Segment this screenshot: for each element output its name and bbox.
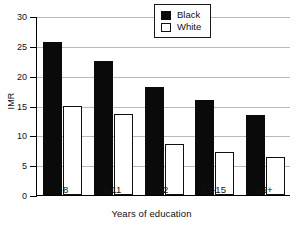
legend-swatch-white-icon	[161, 23, 171, 32]
bar-black-13-15	[195, 100, 214, 195]
legend-swatch-black-icon	[161, 11, 171, 20]
y-tick-mark	[30, 107, 37, 108]
y-tick-label: 15	[17, 102, 27, 112]
bar-white-0-8	[63, 106, 82, 196]
chart-legend: Black White	[154, 4, 211, 38]
y-tick-mark	[30, 196, 37, 197]
x-tick-label: 9-11	[103, 184, 121, 195]
x-tick-label: 0-8	[55, 184, 69, 195]
y-tick-mark	[30, 47, 37, 48]
y-tick-label: 25	[17, 42, 27, 52]
y-tick-mark	[30, 77, 37, 78]
y-tick-mark	[30, 166, 37, 167]
bar-series-container	[37, 17, 290, 195]
plot-area: 051015202530	[36, 17, 290, 196]
x-axis-title: Years of education	[0, 208, 303, 219]
bar-black-9-11	[94, 61, 113, 195]
bar-white-9-11	[114, 114, 133, 195]
bar-black-0-8	[43, 42, 62, 195]
y-tick-mark	[30, 136, 37, 137]
y-axis-title: IMR	[6, 81, 16, 121]
x-tick-label: 12	[158, 184, 169, 195]
legend-item: White	[161, 21, 201, 33]
y-tick-label: 20	[17, 72, 27, 82]
y-tick-label: 30	[17, 12, 27, 22]
bar-black-12	[145, 87, 164, 195]
y-tick-label: 0	[22, 191, 27, 201]
y-tick-label: 5	[22, 161, 27, 171]
imr-by-education-bar-chart: IMR 051015202530 0-89-111213-1516+ Black…	[0, 0, 303, 228]
legend-label-white: White	[177, 22, 201, 32]
legend-item: Black	[161, 9, 201, 21]
x-tick-label: 16+	[257, 184, 273, 195]
bar-black-16+	[246, 115, 265, 195]
y-tick-label: 10	[17, 131, 27, 141]
x-tick-label: 13-15	[202, 184, 226, 195]
y-tick-mark	[30, 17, 37, 18]
legend-label-black: Black	[177, 10, 200, 20]
